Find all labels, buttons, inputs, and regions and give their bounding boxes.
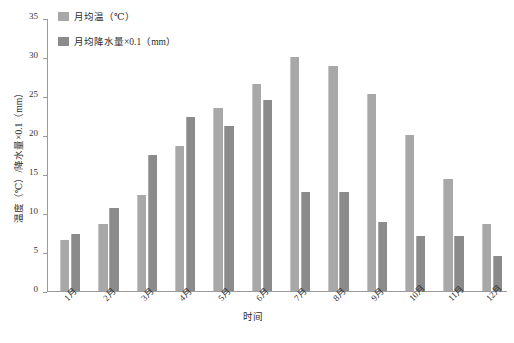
bar-chart: 05101520253035 温度（℃）/降水量×0.1（mm） 1月2月3月4…: [0, 0, 514, 343]
y-axis-tick-label: 0: [34, 285, 39, 294]
bar-precipitation: [378, 222, 388, 291]
legend-swatch-precipitation-icon: [58, 37, 69, 46]
legend-label-temperature: 月均温（℃）: [74, 12, 135, 22]
y-axis-tick-label: 20: [29, 129, 38, 138]
bar-temperature: [367, 94, 377, 291]
legend-swatch-temperature-icon: [58, 12, 69, 21]
legend-label-precipitation: 月均降水量×0.1（mm）: [74, 37, 176, 47]
y-axis-tick-label: 25: [29, 90, 38, 99]
bar-precipitation: [109, 208, 119, 291]
bar-temperature: [443, 179, 453, 291]
bars-layer: [48, 19, 507, 291]
bar-precipitation: [186, 117, 196, 291]
bar-temperature: [405, 135, 415, 291]
bar-precipitation: [339, 192, 349, 291]
y-axis-title: 温度（℃）/降水量×0.1（mm）: [14, 41, 25, 271]
x-axis: 1月2月3月4月5月6月7月8月9月10月11月12月: [47, 292, 507, 332]
bar-temperature: [290, 57, 300, 291]
y-axis-tick-label: 30: [29, 51, 38, 60]
bar-precipitation: [148, 155, 158, 292]
bar-temperature: [252, 84, 262, 291]
y-axis-tick-label: 15: [29, 168, 38, 177]
legend: 月均温（℃） 月均降水量×0.1（mm）: [58, 9, 176, 59]
y-axis-tick-label: 35: [29, 12, 38, 21]
bar-temperature: [137, 195, 147, 291]
bar-temperature: [482, 224, 492, 291]
bar-precipitation: [301, 192, 311, 291]
bar-temperature: [328, 66, 338, 291]
y-axis-tick-label: 5: [34, 246, 39, 255]
bar-precipitation: [416, 236, 426, 291]
legend-item-precipitation: 月均降水量×0.1（mm）: [58, 34, 176, 49]
bar-temperature: [60, 240, 70, 291]
legend-item-temperature: 月均温（℃）: [58, 9, 176, 24]
bar-precipitation: [454, 236, 464, 291]
bar-precipitation: [224, 126, 234, 291]
bar-precipitation: [71, 234, 81, 291]
y-axis-tick-label: 10: [29, 207, 38, 216]
bar-temperature: [213, 108, 223, 291]
plot-area: [47, 19, 507, 292]
x-axis-title: 时间: [243, 312, 263, 323]
bar-precipitation: [263, 100, 273, 291]
bar-temperature: [98, 224, 108, 291]
bar-temperature: [175, 146, 185, 291]
